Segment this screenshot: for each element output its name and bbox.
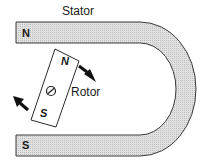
rotation-arrow-right-icon [79,66,96,82]
rotor-south-pole-label: S [40,107,47,119]
rotor-label: Rotor [71,85,100,99]
stator-south-pole-label: S [22,139,29,151]
stator-label: Stator [62,4,94,18]
rotation-arrow-left-icon [13,96,28,110]
motor-diagram: Stator N S N S Rotor [0,0,204,164]
rotor-north-pole-label: N [61,55,69,67]
stator-north-pole-label: N [22,27,30,39]
